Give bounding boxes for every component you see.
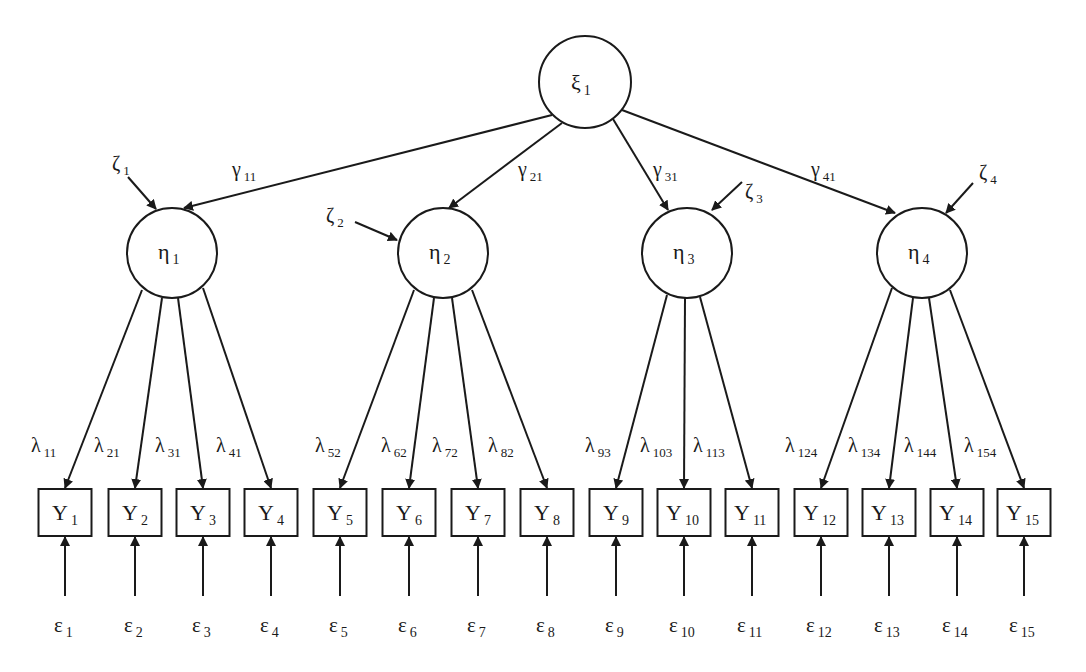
nodes-layer: ξ1η1η2η3η4Y1Y2Y3Y4Y5Y6Y7Y8Y9Y10Y11Y12Y13… [39, 36, 1051, 536]
lambda-label-124-subscript: 124 [798, 445, 818, 460]
lambda-label-82-subscript: 82 [501, 445, 514, 460]
lambda-label-144-symbol: λ [904, 434, 914, 456]
latent-node-eta-3[interactable]: η3 [642, 208, 732, 298]
epsilon-label-15-subscript: 15 [1021, 625, 1035, 640]
lambda-label-52-symbol: λ [315, 434, 325, 456]
epsilon-label-2-symbol: ε [124, 613, 133, 637]
lambda-label-21: λ21 [94, 434, 120, 460]
lambda-label-11: λ11 [31, 434, 56, 460]
latent-node-eta-4[interactable]: η4 [877, 208, 967, 298]
epsilon-label-6-subscript: 6 [410, 625, 417, 640]
indicator-box-y-6[interactable]: Y6 [383, 489, 436, 536]
epsilon-label-4-subscript: 4 [272, 625, 279, 640]
indicator-box-y-3[interactable]: Y3 [177, 489, 230, 536]
indicator-label-y-10-symbol: Y [666, 500, 682, 525]
lambda-label-154: λ154 [964, 434, 997, 460]
indicator-label-y-8-symbol: Y [534, 500, 550, 525]
indicator-label-y-6-symbol: Y [396, 500, 412, 525]
zeta-label-4-subscript: 4 [990, 172, 997, 187]
epsilon-label-13: ε13 [874, 613, 900, 640]
indicator-box-y-14[interactable]: Y14 [931, 489, 984, 536]
lambda-loading-arrow-134[interactable] [889, 298, 913, 488]
epsilon-label-9-symbol: ε [605, 613, 614, 637]
indicator-box-y-2[interactable]: Y2 [109, 489, 162, 536]
epsilon-label-15-symbol: ε [1009, 613, 1018, 637]
zeta-disturbance-arrow-1[interactable] [128, 177, 156, 209]
indicator-label-y-4-symbol: Y [258, 500, 274, 525]
zeta-label-2-subscript: 2 [337, 215, 344, 230]
latent-node-xi-1[interactable]: ξ1 [539, 36, 631, 128]
gamma-label-31: γ31 [652, 158, 678, 184]
indicator-label-y-12-symbol: Y [803, 500, 819, 525]
latent-label-xi-1-symbol: ξ [571, 70, 581, 95]
zeta-disturbance-arrow-2[interactable] [355, 222, 397, 240]
lambda-label-21-subscript: 21 [107, 445, 120, 460]
epsilon-label-8-symbol: ε [536, 613, 545, 637]
zeta-label-3-symbol: ζ [745, 180, 753, 203]
gamma-label-11-symbol: γ [231, 158, 241, 181]
latent-label-eta-2-subscript: 2 [444, 252, 451, 267]
lambda-loading-arrow-103[interactable] [684, 298, 685, 488]
latent-label-eta-4-symbol: η [908, 239, 920, 264]
indicator-box-y-8[interactable]: Y8 [521, 489, 574, 536]
indicator-label-y-9-subscript: 9 [622, 513, 629, 528]
epsilon-label-11: ε11 [737, 613, 762, 640]
zeta-label-1: ζ1 [112, 152, 130, 178]
lambda-label-124: λ124 [785, 434, 818, 460]
latent-node-eta-1[interactable]: η1 [127, 208, 217, 298]
lambda-label-113-symbol: λ [693, 434, 703, 456]
epsilon-label-10-symbol: ε [669, 613, 678, 637]
lambda-label-52-subscript: 52 [328, 445, 341, 460]
latent-node-eta-2[interactable]: η2 [398, 208, 488, 298]
lambda-label-144-subscript: 144 [917, 445, 937, 460]
lambda-loading-arrow-124[interactable] [821, 288, 892, 488]
lambda-loading-arrow-31[interactable] [178, 298, 203, 488]
indicator-box-y-13[interactable]: Y13 [863, 489, 916, 536]
indicator-box-y-4[interactable]: Y4 [245, 489, 298, 536]
indicator-box-y-12[interactable]: Y12 [795, 489, 848, 536]
epsilon-label-15: ε15 [1009, 613, 1035, 640]
epsilon-label-14: ε14 [942, 613, 968, 640]
zeta-label-3-subscript: 3 [756, 191, 763, 206]
epsilon-label-1-subscript: 1 [66, 625, 73, 640]
lambda-loading-arrow-62[interactable] [409, 298, 434, 488]
epsilon-label-1-symbol: ε [54, 613, 63, 637]
lambda-label-62-symbol: λ [381, 434, 391, 456]
epsilon-label-8-subscript: 8 [548, 625, 555, 640]
epsilon-label-3-symbol: ε [192, 613, 201, 637]
lambda-loading-arrow-21[interactable] [135, 298, 162, 488]
indicator-label-y-1-subscript: 1 [71, 513, 78, 528]
lambda-label-82: λ82 [488, 434, 514, 460]
lambda-label-103-symbol: λ [640, 434, 650, 456]
lambda-label-31-symbol: λ [155, 434, 165, 456]
lambda-label-82-symbol: λ [488, 434, 498, 456]
lambda-label-124-symbol: λ [785, 434, 795, 456]
indicator-box-y-11[interactable]: Y11 [726, 489, 779, 536]
zeta-disturbance-arrow-3[interactable] [712, 182, 742, 210]
epsilon-label-5-subscript: 5 [341, 625, 348, 640]
indicator-box-y-5[interactable]: Y5 [314, 489, 367, 536]
lambda-label-103: λ103 [640, 434, 672, 460]
lambda-label-62: λ62 [381, 434, 407, 460]
lambda-loading-arrow-11[interactable] [65, 290, 142, 488]
zeta-label-3: ζ3 [745, 180, 763, 206]
indicator-label-y-7-subscript: 7 [484, 513, 491, 528]
indicator-label-y-3-symbol: Y [190, 500, 206, 525]
lambda-label-72-symbol: λ [432, 434, 442, 456]
lambda-label-31: λ31 [155, 434, 181, 460]
indicator-box-y-7[interactable]: Y7 [452, 489, 505, 536]
epsilon-label-2-subscript: 2 [136, 625, 143, 640]
indicator-box-y-10[interactable]: Y10 [658, 489, 711, 536]
indicator-box-y-1[interactable]: Y1 [39, 489, 92, 536]
indicator-box-y-15[interactable]: Y15 [998, 489, 1051, 536]
epsilon-label-7-subscript: 7 [479, 625, 486, 640]
zeta-disturbance-arrow-4[interactable] [946, 183, 973, 213]
lambda-label-21-symbol: λ [94, 434, 104, 456]
epsilon-label-11-subscript: 11 [749, 625, 762, 640]
epsilon-label-3: ε3 [192, 613, 211, 640]
lambda-label-134-symbol: λ [848, 434, 858, 456]
epsilon-label-11-symbol: ε [737, 613, 746, 637]
gamma-label-21: γ21 [517, 158, 543, 184]
indicator-box-y-9[interactable]: Y9 [590, 489, 643, 536]
indicator-label-y-11-symbol: Y [734, 500, 750, 525]
